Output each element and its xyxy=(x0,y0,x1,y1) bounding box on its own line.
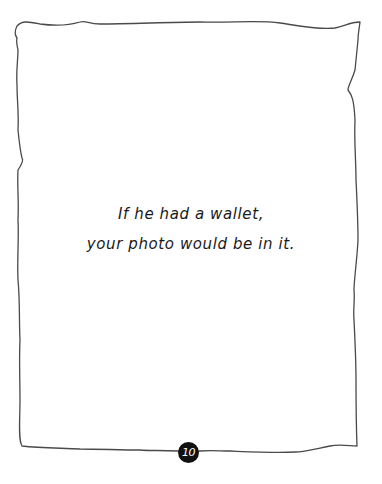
page-number-badge: 10 xyxy=(178,442,199,463)
caption-line-1: If he had a wallet, xyxy=(0,205,382,223)
book-page: If he had a wallet, your photo would be … xyxy=(0,0,382,484)
caption-line-2: your photo would be in it. xyxy=(0,235,382,253)
